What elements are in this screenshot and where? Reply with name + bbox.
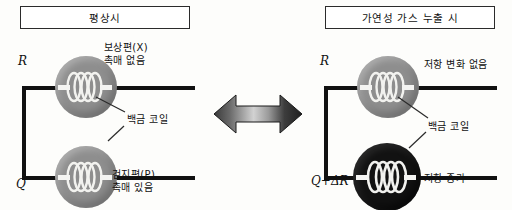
diagram-canvas: 평상시 [0,0,512,210]
leader-lines-right [0,0,512,210]
